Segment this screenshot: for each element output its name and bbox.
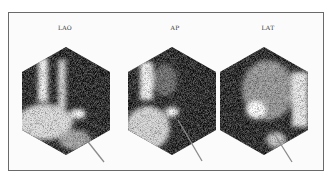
- arrow-lao: [85, 138, 104, 162]
- panel-lao-image: [17, 45, 112, 157]
- panel-ap-image: [126, 45, 218, 157]
- panel-lat-image: [218, 45, 310, 157]
- scintigraphy-panels: [0, 0, 333, 178]
